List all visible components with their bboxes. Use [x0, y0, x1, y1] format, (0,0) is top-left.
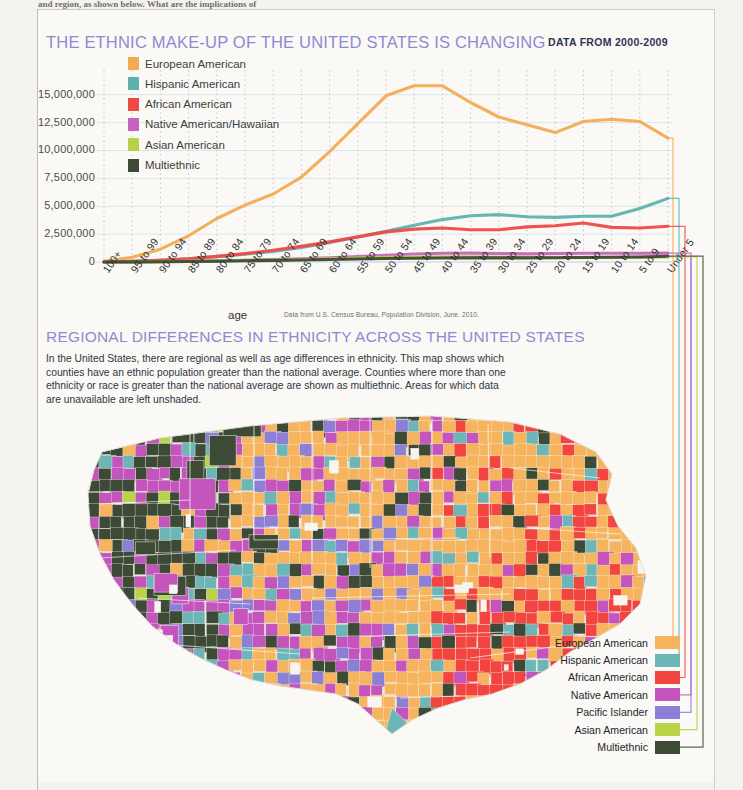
legend-item-hispanic-american[interactable]: Hispanic American: [128, 77, 240, 90]
legend-item-european-american[interactable]: European American: [128, 57, 246, 70]
map-legend-swatch: [655, 741, 680, 754]
legend-item-label: African American: [145, 98, 232, 110]
map-legend-row[interactable]: Hispanic American: [520, 651, 680, 668]
map-legend-swatch: [655, 654, 680, 667]
y-axis-tick-label: 15,000,000: [5, 88, 95, 100]
map-legend: European AmericanHispanic AmericanAfrica…: [520, 634, 680, 756]
person-icon: [128, 138, 139, 151]
map-legend-row[interactable]: Pacific Islander: [520, 704, 680, 721]
line-chart-canvas: [0, 0, 743, 330]
legend-item-label: Native American/Hawaiian: [145, 118, 279, 130]
map-legend-swatch: [655, 706, 680, 719]
y-axis-tick-label: 0: [5, 255, 95, 267]
legend-item-native-american-hawaiian[interactable]: Native American/Hawaiian: [128, 118, 279, 131]
legend-item-label: Multiethnic: [145, 159, 200, 171]
map-legend-swatch: [655, 636, 680, 649]
map-legend-row[interactable]: Multiethnic: [520, 738, 680, 755]
legend-item-label: Asian American: [145, 139, 225, 151]
legend-item-label: Hispanic American: [145, 78, 240, 90]
person-icon: [128, 159, 139, 172]
map-title: REGIONAL DIFFERENCES IN ETHNICITY ACROSS…: [46, 328, 585, 346]
map-legend-swatch: [655, 671, 680, 684]
map-legend-label: African American: [568, 671, 648, 683]
person-icon: [128, 57, 139, 70]
legend-item-african-american[interactable]: African American: [128, 98, 232, 111]
chart-source-note: Data from U.S. Census Bureau, Population…: [284, 311, 479, 318]
legend-item-multiethnic[interactable]: Multiethnic: [128, 159, 200, 172]
map-legend-row[interactable]: Native American: [520, 686, 680, 703]
legend-item-label: European American: [145, 58, 246, 70]
map-legend-row[interactable]: Asian American: [520, 721, 680, 738]
map-legend-label: European American: [555, 637, 648, 649]
person-icon: [128, 118, 139, 131]
y-axis-tick-label: 12,500,000: [5, 116, 95, 128]
x-axis-title: age: [228, 309, 247, 321]
map-legend-label: Hispanic American: [560, 654, 648, 666]
line-chart: 15,000,00012,500,00010,000,0007,500,0005…: [0, 0, 743, 330]
map-description: In the United States, there are regional…: [46, 352, 516, 406]
map-legend-label: Asian American: [574, 724, 648, 736]
person-icon: [128, 77, 139, 90]
person-icon: [128, 98, 139, 111]
y-axis-tick-label: 10,000,000: [5, 143, 95, 155]
infographic-page: and region, as shown below. What are the…: [0, 0, 743, 790]
map-legend-label: Pacific Islander: [576, 706, 648, 718]
map-legend-label: Native American: [571, 689, 648, 701]
y-axis-tick-label: 7,500,000: [5, 171, 95, 183]
map-legend-row[interactable]: African American: [520, 669, 680, 686]
y-axis-tick-label: 5,000,000: [5, 199, 95, 211]
map-legend-swatch: [655, 723, 680, 736]
map-legend-row[interactable]: European American: [520, 634, 680, 651]
legend-item-asian-american[interactable]: Asian American: [128, 138, 225, 151]
map-legend-label: Multiethnic: [597, 741, 648, 753]
y-axis-tick-label: 2,500,000: [5, 227, 95, 239]
map-legend-swatch: [655, 688, 680, 701]
